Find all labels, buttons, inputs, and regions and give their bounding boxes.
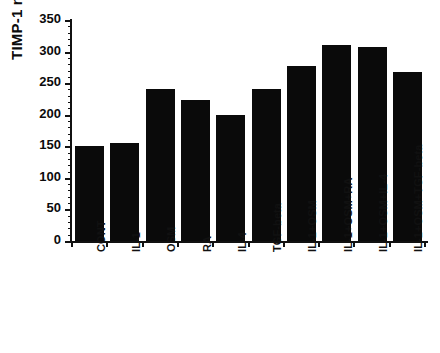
y-tick-label: 0 (54, 232, 61, 247)
y-minor-tick-mark (68, 222, 72, 223)
y-minor-tick-mark (68, 228, 72, 229)
x-tick-mark (71, 241, 73, 247)
x-tick-label: IL-1+OSM (306, 200, 318, 252)
y-tick-label: 300 (39, 43, 61, 58)
y-minor-tick-mark (68, 71, 72, 72)
x-tick-mark (318, 241, 320, 247)
y-axis-title: TIMP-1 ng/ml (6, 0, 28, 82)
x-tick-label: OSM (165, 227, 177, 252)
y-minor-tick-mark (68, 203, 72, 204)
y-tick-label: 250 (39, 74, 61, 89)
y-tick-label: 100 (39, 169, 61, 184)
y-tick-label: 150 (39, 137, 61, 152)
x-tick-mark (283, 241, 285, 247)
y-minor-tick-mark (68, 108, 72, 109)
y-tick-mark (65, 146, 72, 148)
y-minor-tick-mark (68, 96, 72, 97)
bar (110, 143, 139, 241)
x-tick-label: IL-4 (236, 232, 248, 252)
y-minor-tick-mark (68, 134, 72, 135)
y-tick-mark (65, 115, 72, 117)
x-tick-label: CONT (95, 220, 107, 252)
y-tick-label: 50 (47, 200, 61, 215)
x-tick-label: TGF-beta (271, 203, 283, 252)
y-tick-mark (65, 52, 72, 54)
y-tick-label: 350 (39, 11, 61, 26)
x-tick-mark (177, 241, 179, 247)
y-tick-mark (65, 178, 72, 180)
x-tick-label: RA (201, 236, 213, 252)
y-minor-tick-mark (68, 235, 72, 236)
y-minor-tick-mark (68, 165, 72, 166)
bar (216, 115, 245, 241)
y-minor-tick-mark (68, 45, 72, 46)
x-tick-label: IL-1+OSM+TGF-beta (412, 145, 424, 252)
y-minor-tick-mark (68, 172, 72, 173)
x-tick-label: IL-1+OSM+RA (342, 178, 354, 252)
y-minor-tick-mark (68, 140, 72, 141)
x-tick-label: IL-1+OSM+IL-4 (377, 174, 389, 252)
y-minor-tick-mark (68, 77, 72, 78)
y-minor-tick-mark (68, 190, 72, 191)
y-minor-tick-mark (68, 33, 72, 34)
y-minor-tick-mark (68, 39, 72, 40)
y-tick-mark (65, 20, 72, 22)
plot-area: 050100150200250300350 (72, 20, 425, 241)
y-tick-mark (65, 83, 72, 85)
y-minor-tick-mark (68, 127, 72, 128)
y-minor-tick-mark (68, 26, 72, 27)
y-minor-tick-mark (68, 216, 72, 217)
bar (146, 89, 175, 241)
bar (181, 100, 210, 241)
y-minor-tick-mark (68, 58, 72, 59)
y-tick-label: 200 (39, 106, 61, 121)
y-minor-tick-mark (68, 102, 72, 103)
y-minor-tick-mark (68, 121, 72, 122)
y-minor-tick-mark (68, 197, 72, 198)
x-tick-mark (424, 241, 426, 247)
y-tick-mark (65, 209, 72, 211)
y-minor-tick-mark (68, 153, 72, 154)
bar-chart-figure: TIMP-1 ng/ml 050100150200250300350 CONTI… (0, 0, 440, 353)
y-minor-tick-mark (68, 89, 72, 90)
y-minor-tick-mark (68, 159, 72, 160)
x-tick-label: IL-1 (130, 232, 142, 252)
y-minor-tick-mark (68, 64, 72, 65)
y-minor-tick-mark (68, 184, 72, 185)
